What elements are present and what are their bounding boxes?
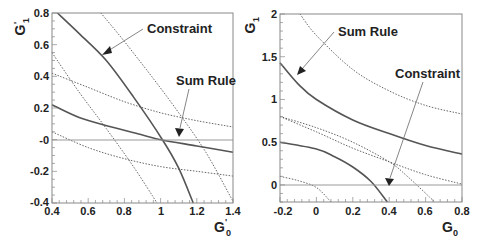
svg-text:G: G [442,219,453,235]
right-y-axis-title: G 1 [242,17,261,33]
right-xtick-label: -0.2 [274,205,293,217]
right-xtick-label: 0.6 [417,205,432,217]
solid-curve [52,105,233,153]
svg-text:G: G [12,24,28,35]
left-panel: 0.8 0.6 0.4 0.2 -0 -0.2 -0.4 0.4 0.6 0.8… [12,7,242,238]
left-plot-curves [52,13,233,203]
left-constraint-arrow-line [108,29,143,51]
svg-text:G: G [242,22,258,33]
right-annotation-sumrule: Sum Rule [338,24,398,39]
arrowhead-icon [175,128,184,137]
left-sumrule-arrow-line [180,89,189,128]
left-ytick-label: 0.8 [34,7,49,19]
svg-text:G: G [214,219,225,235]
left-ytick-label: 0.2 [34,102,49,114]
solid-curve [280,142,387,202]
left-xtick-label: 1 [158,205,164,217]
right-panel: 2 1.5 1 0.5 0 -0.2 0 0.2 0.4 0.6 0.8 G 1… [242,8,470,238]
left-xtick-label: 0.4 [44,205,60,217]
left-x-axis-title: G ' 0 [214,217,231,238]
left-xtick-label: 0.6 [80,205,95,217]
dotted-curve [280,176,331,202]
left-ytick-label: -0 [39,134,49,146]
right-xtick-label: 0 [313,205,319,217]
arrowhead-icon [297,66,306,75]
right-plot-frame [280,14,462,202]
right-axis-ticks [280,14,462,202]
right-xtick-label: 0.8 [454,205,469,217]
right-xtick-label: 0.2 [345,205,360,217]
right-ytick-label: 2 [271,8,277,20]
right-ytick-label: 1.5 [262,51,277,63]
svg-text:1: 1 [21,18,31,23]
left-annotation-constraint: Constraint [147,21,213,36]
left-xtick-label: 1.4 [225,205,241,217]
dotted-curve [52,132,233,176]
svg-text:': ' [225,217,227,227]
dotted-curve [52,53,157,203]
right-xtick-label: 0.4 [381,205,397,217]
right-x-axis-title: G 0 [442,219,458,238]
left-ytick-label: 0.6 [34,39,49,51]
dotted-curve [101,13,233,201]
right-plot-curves [280,14,462,202]
left-ytick-label: 0.4 [34,70,50,82]
arrowhead-icon [102,46,112,55]
left-y-axis-title: G ' 1 [12,18,31,35]
right-annotation-constraint: Constraint [395,66,461,81]
right-ytick-label: 0.5 [262,136,277,148]
right-ytick-label: 0 [271,179,277,191]
svg-text:1: 1 [251,17,261,22]
svg-text:0: 0 [226,228,231,238]
right-constraint-arrow-line [390,82,423,178]
svg-text:0: 0 [453,228,458,238]
figure: 0.8 0.6 0.4 0.2 -0 -0.2 -0.4 0.4 0.6 0.8… [0,0,482,243]
dotted-curve [280,117,435,203]
left-ytick-label: -0.2 [30,165,49,177]
left-annotation-sumrule: Sum Rule [176,73,236,88]
solid-curve [57,13,193,203]
left-xtick-label: 0.8 [116,205,131,217]
right-sumrule-arrow-line [302,32,334,69]
left-xtick-label: 1.2 [189,205,204,217]
right-ytick-label: 1 [271,93,277,105]
